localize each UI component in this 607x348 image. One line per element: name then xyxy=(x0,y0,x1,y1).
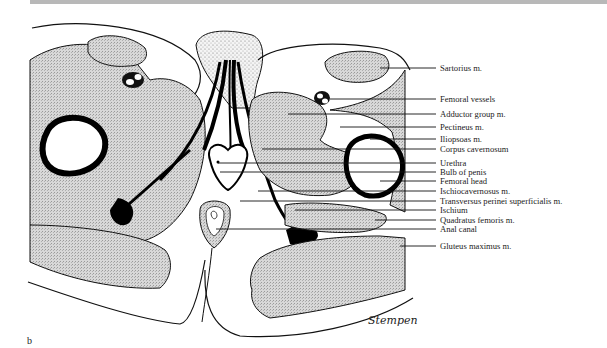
label-iliopsoas: Iliopsoas m. xyxy=(440,135,482,144)
label-anal-canal: Anal canal xyxy=(440,225,477,234)
left-thigh xyxy=(30,24,205,243)
label-pectineus: Pectineus m. xyxy=(440,123,484,132)
right-thigh xyxy=(249,44,410,245)
label-adductor-group: Adductor group m. xyxy=(440,110,506,119)
label-ischium: Ischium xyxy=(440,206,468,215)
label-femoral-head: Femoral head xyxy=(440,177,487,186)
label-sartorius: Sartorius m. xyxy=(440,64,482,73)
label-ischiocavernosus: Ischiocavernosus m. xyxy=(440,187,510,196)
bulb-of-penis xyxy=(209,145,247,190)
anatomy-cross-section xyxy=(0,0,607,348)
label-gluteus-maximus: Gluteus maximus m. xyxy=(440,242,511,251)
panel-letter: b xyxy=(27,335,32,346)
label-femoral-vessels: Femoral vessels xyxy=(440,95,495,104)
artist-signature: Stempen xyxy=(368,314,418,327)
label-corpus-cavernosum: Corpus cavernosum xyxy=(440,145,509,154)
right-gluteus xyxy=(250,236,405,318)
